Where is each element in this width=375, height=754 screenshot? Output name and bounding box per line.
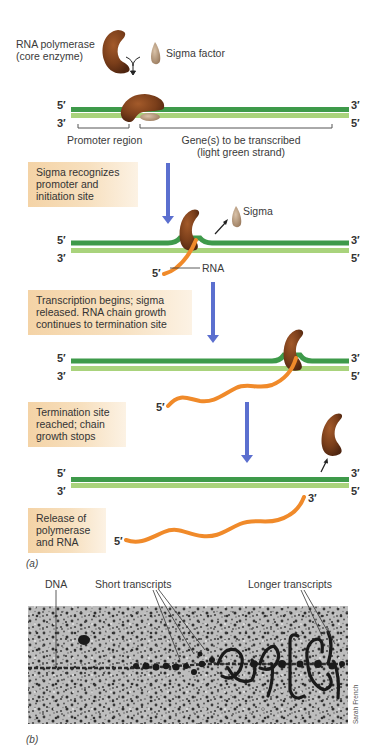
photo-credit-text: Sarah French xyxy=(352,685,359,724)
micrograph-leader-lines xyxy=(0,0,375,754)
panel-b-label: (b) xyxy=(26,734,38,745)
photo-credit: Sarah French xyxy=(352,650,362,724)
